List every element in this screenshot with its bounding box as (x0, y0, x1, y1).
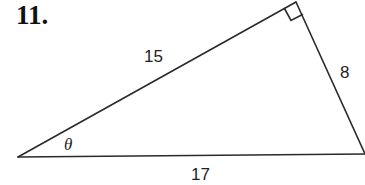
label-left-leg: 15 (144, 47, 163, 66)
label-right-leg: 8 (340, 63, 349, 82)
side-left-leg (18, 2, 296, 157)
right-triangle-diagram: 15 8 17 θ (0, 0, 365, 185)
side-right-leg (296, 2, 365, 154)
label-hypotenuse: 17 (191, 165, 210, 184)
label-angle-theta: θ (64, 135, 72, 154)
side-hypotenuse (18, 154, 365, 157)
